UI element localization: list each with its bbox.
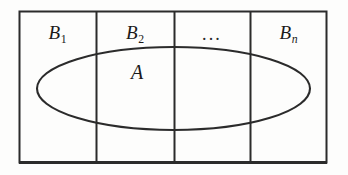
block-label-bn: Bn: [280, 22, 298, 44]
block-label-bn-base: B: [280, 22, 292, 43]
block-label-bn-subscript: n: [292, 33, 298, 46]
block-label-ellipsis: ...: [202, 24, 222, 45]
block-label-b1: B1: [49, 22, 67, 44]
block-label-b1-subscript: 1: [61, 33, 67, 46]
block-label-b2-base: B: [126, 22, 138, 43]
set-label-a: A: [131, 61, 143, 84]
block-label-b1-base: B: [49, 22, 61, 43]
block-label-b2-subscript: 2: [138, 33, 144, 46]
partition-diagram: B1 B2 ... Bn A: [0, 0, 348, 175]
block-label-b2: B2: [126, 22, 144, 44]
